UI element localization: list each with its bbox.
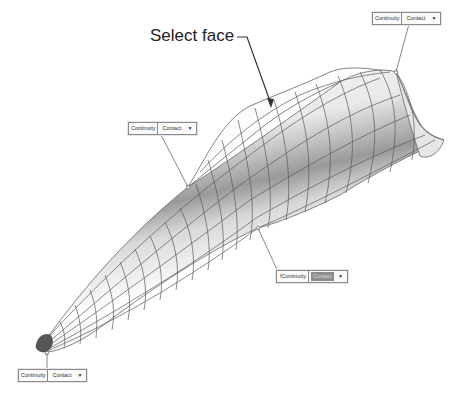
chevron-down-icon: ▼ xyxy=(338,271,343,282)
select-face-label: Select face xyxy=(150,26,234,46)
continuity-callout-top-right[interactable]: Continuity Contact ▼ xyxy=(372,12,441,25)
continuity-callout-middle-left[interactable]: Continuity Contact ▼ xyxy=(128,122,197,135)
chevron-down-icon: ▼ xyxy=(431,13,436,24)
continuity-value: Contact xyxy=(50,370,73,381)
continuity-label: Continuity xyxy=(129,123,158,134)
3d-viewport[interactable] xyxy=(0,0,462,397)
continuity-value: Contact xyxy=(404,13,427,24)
continuity-dropdown[interactable]: Contact ▼ xyxy=(48,370,86,381)
continuity-value: Contact xyxy=(160,123,183,134)
chevron-down-icon: ▼ xyxy=(77,370,82,381)
continuity-callout-middle-right[interactable]: fContinuity Contact ▼ xyxy=(276,270,348,283)
continuity-value-selected: Contact xyxy=(311,272,334,281)
continuity-dropdown[interactable]: Contact ▼ xyxy=(309,271,347,282)
continuity-dropdown[interactable]: Contact ▼ xyxy=(158,123,196,134)
continuity-label: Continuity xyxy=(19,370,48,381)
continuity-label: Continuity xyxy=(373,13,402,24)
chevron-down-icon: ▼ xyxy=(187,123,192,134)
continuity-callout-bottom-left[interactable]: Continuity Contact ▼ xyxy=(18,369,87,382)
continuity-label: fContinuity xyxy=(277,271,309,282)
swept-surface[interactable] xyxy=(36,68,444,355)
continuity-dropdown[interactable]: Contact ▼ xyxy=(402,13,440,24)
